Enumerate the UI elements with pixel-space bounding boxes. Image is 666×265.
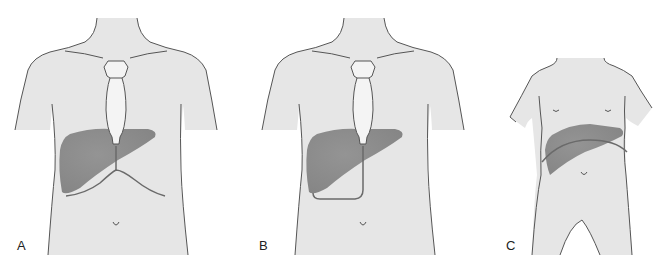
diagram-canvas [0,0,666,265]
panel-label-a: A [17,238,26,253]
panel-c [510,58,652,255]
panel-b [262,18,464,255]
panel-label-c: C [506,238,515,253]
panel-a [15,18,217,255]
torso-c [510,58,652,255]
liver-diagram-figure: A B C [0,0,666,265]
panel-label-b: B [259,238,268,253]
